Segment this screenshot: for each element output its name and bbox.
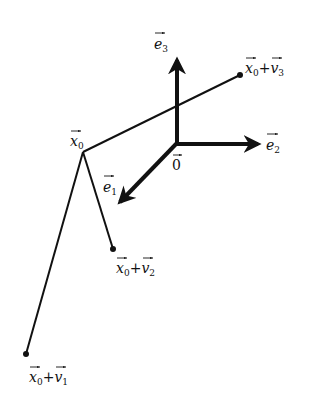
svg-text:e1: e1 <box>103 179 117 197</box>
point-x0-plus-v3 <box>237 72 243 78</box>
label-x0-plus-v3: x0+v3 <box>245 58 284 78</box>
label-origin: 0 <box>172 155 182 173</box>
svg-text:x0+v2: x0+v2 <box>116 260 155 278</box>
label-x0-plus-v1: x0+v1 <box>29 367 68 387</box>
segment-x0-to-x0-plus-v2 <box>83 152 113 249</box>
svg-text:e2: e2 <box>266 137 280 155</box>
vector-diagram: e3 e2 e1 0 x0 x0+v3 x0+v2 x0+v1 <box>0 0 314 414</box>
label-x0-plus-v2: x0+v2 <box>116 258 155 278</box>
label-x0: x0 <box>70 131 84 151</box>
label-e1: e1 <box>103 176 117 197</box>
point-x0-plus-v1 <box>23 351 29 357</box>
label-e2: e2 <box>266 134 280 155</box>
label-e3: e3 <box>154 33 168 54</box>
e1-axis-arrow <box>120 143 177 202</box>
svg-text:x0: x0 <box>70 133 84 151</box>
segment-x0-to-x0-plus-v1 <box>26 152 83 354</box>
segment-x0-to-x0-plus-v3 <box>83 75 240 152</box>
svg-text:x0+v3: x0+v3 <box>245 60 284 78</box>
svg-text:x0+v1: x0+v1 <box>29 369 68 387</box>
svg-text:e3: e3 <box>154 36 168 54</box>
point-x0-plus-v2 <box>110 246 116 252</box>
svg-text:0: 0 <box>172 157 181 173</box>
